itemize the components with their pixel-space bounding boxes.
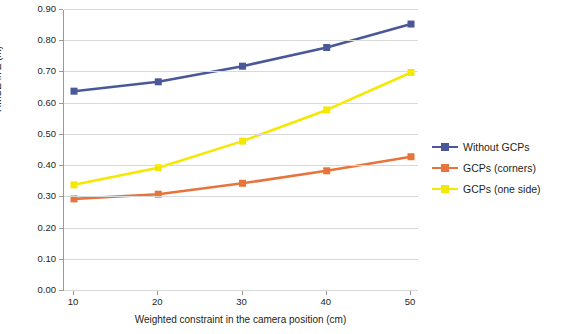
- y-tick-mark: [59, 228, 63, 229]
- legend-label: GCPs (one side): [463, 183, 541, 195]
- y-tick-label: 0.10: [22, 254, 56, 264]
- y-tick-mark: [59, 40, 63, 41]
- x-tick-mark: [326, 291, 327, 295]
- series-marker: [239, 138, 246, 145]
- x-tick-label: 40: [311, 297, 341, 307]
- x-axis-title: Weighted constraint in the camera positi…: [63, 314, 418, 325]
- legend-swatch-icon: [432, 141, 458, 153]
- legend-label: GCPs (corners): [463, 162, 536, 174]
- gridline: [64, 259, 418, 260]
- y-tick-label: 0.30: [22, 191, 56, 201]
- y-tick-label: 0.40: [22, 160, 56, 170]
- series-marker: [323, 44, 330, 51]
- gridline: [64, 9, 418, 10]
- gridline: [64, 40, 418, 41]
- legend-swatch-icon: [432, 183, 458, 195]
- legend-marker-icon: [441, 164, 449, 172]
- series-marker: [408, 69, 415, 76]
- gridline: [64, 134, 418, 135]
- gridline: [64, 165, 418, 166]
- series-marker: [408, 153, 415, 160]
- series-layer: [64, 10, 419, 291]
- y-tick-label: 0.70: [22, 66, 56, 76]
- x-tick-mark: [242, 291, 243, 295]
- x-tick-mark: [157, 291, 158, 295]
- series-marker: [71, 88, 78, 95]
- chart-legend: Without GCPsGCPs (corners)GCPs (one side…: [432, 136, 572, 199]
- y-tick-label: 0.20: [22, 223, 56, 233]
- y-tick-mark: [59, 165, 63, 166]
- y-axis-title: RMSE in Z (m): [0, 46, 3, 112]
- y-tick-mark: [59, 9, 63, 10]
- series-marker: [323, 167, 330, 174]
- legend-item[interactable]: GCPs (one side): [432, 178, 572, 199]
- y-tick-mark: [59, 71, 63, 72]
- y-tick-mark: [59, 259, 63, 260]
- legend-marker-icon: [441, 185, 449, 193]
- y-tick-label: 0.90: [22, 4, 56, 14]
- series-line: [74, 24, 411, 91]
- series-marker: [408, 21, 415, 28]
- x-tick-label: 10: [58, 297, 88, 307]
- x-tick-label: 30: [227, 297, 257, 307]
- legend-marker-icon: [441, 143, 449, 151]
- series-line: [74, 157, 411, 199]
- gridline: [64, 228, 418, 229]
- gridline: [64, 103, 418, 104]
- series-marker: [323, 106, 330, 113]
- series-marker: [239, 180, 246, 187]
- legend-item[interactable]: Without GCPs: [432, 136, 572, 157]
- x-tick-mark: [73, 291, 74, 295]
- gridline: [64, 196, 418, 197]
- series-marker: [71, 181, 78, 188]
- x-tick-mark: [410, 291, 411, 295]
- y-tick-label: 0.60: [22, 98, 56, 108]
- legend-swatch-icon: [432, 162, 458, 174]
- x-tick-label: 50: [395, 297, 425, 307]
- y-tick-mark: [59, 196, 63, 197]
- series-marker: [239, 63, 246, 70]
- gridline: [64, 71, 418, 72]
- y-tick-label: 0.80: [22, 35, 56, 45]
- y-tick-label: 0.50: [22, 129, 56, 139]
- y-tick-label: 0.00: [22, 285, 56, 295]
- legend-item[interactable]: GCPs (corners): [432, 157, 572, 178]
- series-line: [74, 72, 411, 184]
- y-tick-mark: [59, 103, 63, 104]
- chart-figure: 0.000.100.200.300.400.500.600.700.800.90…: [0, 0, 573, 334]
- y-tick-mark: [59, 134, 63, 135]
- plot-area: [63, 10, 418, 291]
- y-tick-mark: [59, 290, 63, 291]
- legend-label: Without GCPs: [463, 141, 530, 153]
- series-marker: [155, 78, 162, 85]
- x-tick-label: 20: [142, 297, 172, 307]
